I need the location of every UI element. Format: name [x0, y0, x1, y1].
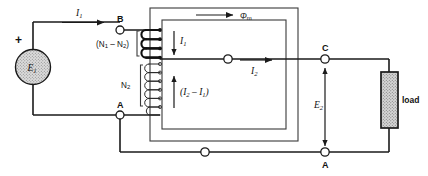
- emf-e2-annotation: E2: [313, 68, 325, 146]
- turns-common-label: N2: [121, 81, 131, 90]
- winding-current-diff-annotation: (I2 – I1): [174, 76, 209, 108]
- current-i2-annotation: I2: [240, 60, 272, 77]
- terminal-a-left-label: A: [117, 100, 124, 110]
- terminal-c[interactable]: [321, 55, 329, 63]
- load-resistor: [381, 72, 398, 128]
- turns-series-label: (N1 – N2): [96, 40, 129, 49]
- winding-series-section: [141, 28, 162, 59]
- terminal-b[interactable]: [116, 26, 124, 34]
- flux-label: Φm: [240, 12, 252, 21]
- current-i1-annotation: I1: [62, 8, 104, 23]
- emf-e2-label: E2: [313, 100, 324, 111]
- terminal-a-bottom-label: A: [322, 160, 329, 170]
- terminal-mid-secondary[interactable]: [224, 55, 232, 63]
- current-i1-label: I1: [75, 8, 82, 19]
- terminal-a-bottom[interactable]: [321, 148, 329, 156]
- winding-current-i1-label: I1: [179, 36, 186, 47]
- terminal-c-label: C: [322, 43, 329, 53]
- load-label: load: [402, 95, 419, 105]
- winding-common-section: [145, 62, 162, 115]
- transformer-core: [150, 8, 298, 141]
- flux-annotation: Φm: [196, 12, 252, 21]
- current-i2-label: I2: [250, 66, 258, 77]
- terminal-mid-bottom[interactable]: [201, 148, 209, 156]
- polarity-plus-marker: +: [15, 33, 22, 47]
- voltage-source-e1: E1: [16, 50, 51, 85]
- turns-series-bracket: [137, 31, 140, 56]
- autotransformer-diagram: E1 + I1 Φm (N1 – N2): [0, 0, 428, 176]
- terminal-a-left[interactable]: [116, 111, 124, 119]
- terminal-b-label: B: [117, 14, 124, 24]
- turns-common-bracket: [141, 65, 144, 106]
- winding-current-diff-label: (I2 – I1): [180, 87, 209, 98]
- schematic-canvas: E1 + I1 Φm (N1 – N2): [0, 0, 428, 176]
- winding-current-i1-annotation: I1: [174, 31, 186, 55]
